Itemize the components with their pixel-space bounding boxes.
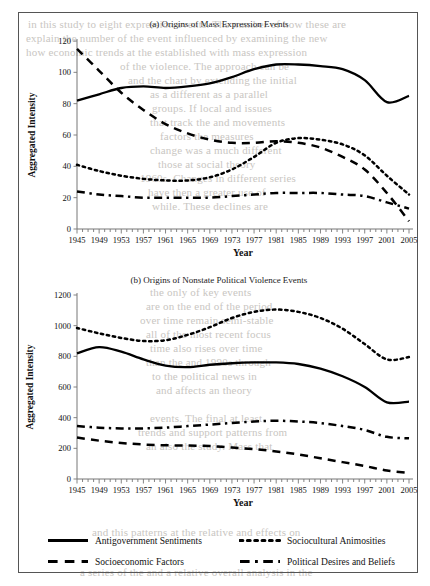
y-tick-label: 400 bbox=[58, 413, 71, 423]
x-tick-label: 1957 bbox=[135, 485, 152, 495]
x-tick-label: 2005 bbox=[401, 485, 418, 495]
legend-label: Sociocultural Animosities bbox=[287, 536, 385, 546]
x-tick-label: 1985 bbox=[290, 485, 307, 495]
y-tick-label: 600 bbox=[58, 382, 71, 392]
x-tick-label: 1945 bbox=[69, 235, 86, 245]
x-tick-label: 1969 bbox=[201, 235, 218, 245]
series-line-4 bbox=[77, 191, 409, 208]
x-tick-label: 1953 bbox=[113, 485, 130, 495]
x-tick-label: 2001 bbox=[378, 235, 395, 245]
y-axis-label: Aggregated Intensity bbox=[25, 344, 35, 429]
y-tick-label: 200 bbox=[58, 443, 71, 453]
legend-swatch-dotted bbox=[239, 535, 281, 546]
x-tick-label: 1977 bbox=[246, 235, 263, 245]
series-line-2 bbox=[77, 138, 409, 195]
chart-panel-b: (b) Origins of Nonstate Political Violen… bbox=[19, 271, 419, 531]
figure-legend: Antigovernment SentimentsSociocultural A… bbox=[19, 529, 419, 574]
x-tick-label: 1997 bbox=[356, 235, 373, 245]
x-tick-label: 1981 bbox=[268, 235, 285, 245]
legend-swatch-solid bbox=[47, 535, 89, 546]
x-tick-label: 1985 bbox=[290, 235, 307, 245]
y-tick-label: 1200 bbox=[54, 290, 71, 300]
chart-a-plot: 0204060801001201945194919531957196119651… bbox=[19, 13, 419, 281]
x-tick-label: 2001 bbox=[378, 485, 395, 495]
x-axis-label: Year bbox=[233, 247, 254, 258]
x-tick-label: 1965 bbox=[179, 485, 196, 495]
series-line-3 bbox=[77, 49, 409, 221]
y-tick-label: 120 bbox=[58, 36, 71, 46]
x-tick-label: 1965 bbox=[179, 235, 196, 245]
y-tick-label: 1000 bbox=[54, 321, 71, 331]
series-line-4 bbox=[77, 421, 409, 439]
x-tick-label: 1973 bbox=[223, 485, 240, 495]
legend-label: Socioeconomic Factors bbox=[95, 557, 184, 567]
x-tick-label: 1977 bbox=[246, 485, 263, 495]
x-tick-label: 1993 bbox=[334, 485, 351, 495]
x-tick-label: 1949 bbox=[91, 485, 108, 495]
legend-label: Political Desires and Beliefs bbox=[287, 557, 395, 567]
legend-item: Antigovernment Sentiments bbox=[47, 535, 239, 546]
x-tick-label: 1989 bbox=[312, 485, 329, 495]
legend-item: Sociocultural Animosities bbox=[239, 535, 399, 546]
y-tick-label: 20 bbox=[63, 193, 72, 203]
x-axis-label: Year bbox=[233, 497, 254, 508]
x-tick-label: 1993 bbox=[334, 235, 351, 245]
legend-swatch-dashed bbox=[47, 556, 89, 567]
chart-panel-a: (a) Origins of Mass Expression Events 02… bbox=[19, 13, 419, 281]
legend-item: Political Desires and Beliefs bbox=[239, 556, 399, 567]
y-tick-label: 60 bbox=[63, 130, 72, 140]
x-tick-label: 1969 bbox=[201, 485, 218, 495]
x-tick-label: 1981 bbox=[268, 485, 285, 495]
y-axis-label: Aggregated Intensity bbox=[27, 92, 37, 177]
y-tick-label: 0 bbox=[67, 224, 71, 234]
legend-label: Antigovernment Sentiments bbox=[95, 536, 202, 546]
y-tick-label: 40 bbox=[63, 161, 72, 171]
series-line-1 bbox=[77, 347, 409, 403]
y-tick-label: 800 bbox=[58, 351, 71, 361]
x-tick-label: 1961 bbox=[157, 235, 174, 245]
x-tick-label: 1997 bbox=[356, 485, 373, 495]
x-tick-label: 1973 bbox=[223, 235, 240, 245]
figure-frame: (a) Origins of Mass Expression Events 02… bbox=[18, 12, 418, 573]
x-tick-label: 1949 bbox=[91, 235, 108, 245]
y-tick-label: 100 bbox=[58, 67, 71, 77]
y-tick-label: 80 bbox=[63, 99, 72, 109]
x-tick-label: 1953 bbox=[113, 235, 130, 245]
x-tick-label: 1989 bbox=[312, 235, 329, 245]
x-tick-label: 1957 bbox=[135, 235, 152, 245]
x-tick-label: 2005 bbox=[401, 235, 418, 245]
legend-item: Socioeconomic Factors bbox=[47, 556, 239, 567]
x-tick-label: 1961 bbox=[157, 485, 174, 495]
y-tick-label: 0 bbox=[67, 474, 71, 484]
x-tick-label: 1945 bbox=[69, 485, 86, 495]
series-line-3 bbox=[77, 438, 409, 473]
legend-swatch-dashdot bbox=[239, 556, 281, 567]
chart-b-plot: 0200400600800100012001945194919531957196… bbox=[19, 271, 419, 531]
series-line-1 bbox=[77, 64, 409, 103]
